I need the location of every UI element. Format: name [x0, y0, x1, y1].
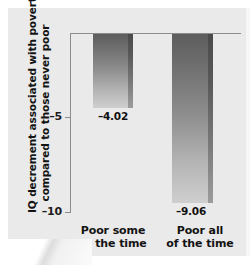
value-label-poor-all-of-the-time: –9.06 — [160, 205, 222, 217]
bar-poor-some-of-the-time — [93, 34, 128, 108]
y-axis-line — [70, 33, 71, 213]
page-edge-highlight — [246, 8, 250, 256]
y-axis-tick-minus-5 — [65, 117, 71, 118]
y-axis-tick-label-minus-5: –5 — [36, 110, 62, 123]
y-axis-foot — [65, 212, 71, 213]
y-axis-tick-label-minus-10: –10 — [36, 205, 62, 218]
bar-poor-all-of-the-time — [172, 34, 208, 203]
category-label-1-line-1: Poor all — [150, 224, 250, 237]
value-label-poor-some-of-the-time: –4.02 — [83, 110, 143, 122]
category-label-poor-all-of-the-time: Poor all of the time — [150, 224, 250, 250]
category-label-1-line-2: of the time — [150, 237, 250, 250]
bar-poor-all-of-the-time-shadow — [208, 34, 213, 203]
chart-figure: IQ decrement associated with poverty com… — [0, 0, 250, 265]
bar-poor-some-of-the-time-shadow — [128, 34, 133, 108]
